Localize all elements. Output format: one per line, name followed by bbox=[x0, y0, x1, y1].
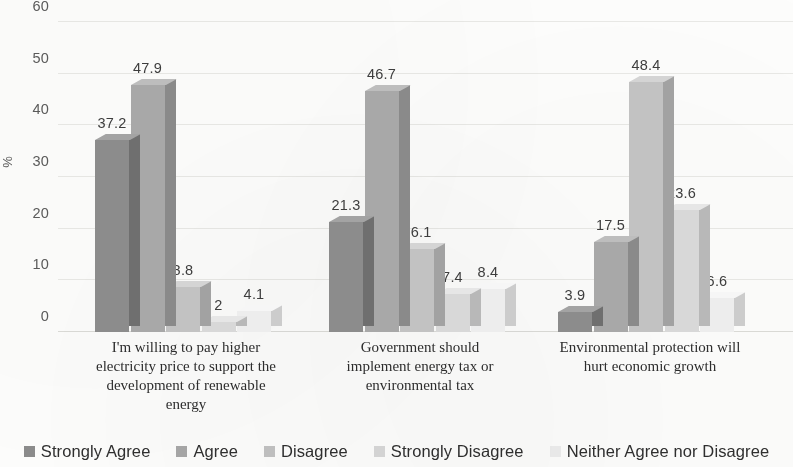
category-labels: I'm willing to pay higherelectricity pri… bbox=[58, 338, 793, 416]
bar-value-label: 21.3 bbox=[331, 197, 360, 213]
bar-side-face bbox=[505, 283, 516, 326]
y-axis-tick-label: 30 bbox=[32, 153, 49, 169]
category-label-line: energy bbox=[71, 395, 301, 414]
bar-value-label: 46.7 bbox=[367, 66, 396, 82]
category-label-line: Environmental protection will bbox=[535, 338, 765, 357]
y-axis-title: % bbox=[0, 156, 15, 168]
bar-group: 37.247.98.824.1 bbox=[95, 22, 278, 332]
category-label-line: I'm willing to pay higher bbox=[71, 338, 301, 357]
bar: 3.9 bbox=[558, 312, 592, 332]
bar-value-label: 3.9 bbox=[565, 287, 586, 303]
bar: 37.2 bbox=[95, 140, 129, 332]
category-label-line: development of renewable bbox=[71, 376, 301, 395]
bar-side-face bbox=[699, 204, 710, 326]
bar-side-face bbox=[363, 216, 374, 326]
legend-item[interactable]: Disagree bbox=[264, 442, 348, 461]
bar-groups: 37.247.98.824.121.346.716.17.48.43.917.5… bbox=[58, 22, 793, 332]
legend-label: Strongly Disagree bbox=[391, 442, 524, 461]
category-label: Environmental protection willhurt econom… bbox=[535, 338, 765, 376]
bar-value-label: 17.5 bbox=[596, 217, 625, 233]
bar-chart: 0102030405060% 37.247.98.824.121.346.716… bbox=[0, 0, 793, 467]
bar-value-label: 8.4 bbox=[478, 264, 499, 280]
bar-side-face bbox=[165, 79, 176, 326]
bar-group: 21.346.716.17.48.4 bbox=[329, 22, 512, 332]
bar-value-label: 48.4 bbox=[631, 57, 660, 73]
legend-swatch-icon bbox=[24, 446, 35, 457]
category-label-line: Government should bbox=[305, 338, 535, 357]
legend-label: Disagree bbox=[281, 442, 348, 461]
category-label: I'm willing to pay higherelectricity pri… bbox=[71, 338, 301, 414]
bar-front-face bbox=[329, 222, 363, 332]
legend: Strongly AgreeAgreeDisagreeStrongly Disa… bbox=[0, 442, 793, 461]
bar-side-face bbox=[628, 236, 639, 326]
bar-side-face bbox=[434, 243, 445, 326]
bar-value-label: 4.1 bbox=[244, 286, 265, 302]
y-axis-tick-label: 20 bbox=[32, 205, 49, 221]
bar-side-face bbox=[200, 281, 211, 326]
bar: 21.3 bbox=[329, 222, 363, 332]
bar-top-face bbox=[329, 216, 374, 222]
legend-item[interactable]: Agree bbox=[176, 442, 238, 461]
category-label-line: environmental tax bbox=[305, 376, 535, 395]
legend-swatch-icon bbox=[264, 446, 275, 457]
bar-group: 3.917.548.423.66.6 bbox=[558, 22, 741, 332]
bar-value-label: 47.9 bbox=[133, 60, 162, 76]
bar-top-face bbox=[131, 79, 176, 85]
y-axis-tick-label: 60 bbox=[32, 0, 49, 14]
legend-swatch-icon bbox=[176, 446, 187, 457]
legend-label: Neither Agree nor Disagree bbox=[567, 442, 770, 461]
y-axis-tick-label: 40 bbox=[32, 101, 49, 117]
legend-swatch-icon bbox=[374, 446, 385, 457]
legend-label: Strongly Agree bbox=[41, 442, 151, 461]
y-axis-tick-label: 0 bbox=[41, 308, 49, 324]
bar-top-face bbox=[558, 306, 603, 312]
bar-front-face bbox=[558, 312, 592, 332]
y-axis-tick-label: 10 bbox=[32, 256, 49, 272]
bar-front-face bbox=[95, 140, 129, 332]
y-axis-tick-label: 50 bbox=[32, 50, 49, 66]
category-label-line: hurt economic growth bbox=[535, 357, 765, 376]
bar-value-label: 37.2 bbox=[97, 115, 126, 131]
plot-area: 0102030405060% 37.247.98.824.121.346.716… bbox=[58, 22, 793, 332]
bar-top-face bbox=[237, 305, 282, 311]
bar-top-face bbox=[594, 236, 639, 242]
bar-value-label: 6.6 bbox=[707, 273, 728, 289]
bar-side-face bbox=[129, 134, 140, 326]
legend-item[interactable]: Neither Agree nor Disagree bbox=[550, 442, 770, 461]
bar-top-face bbox=[365, 85, 410, 91]
bar-value-label: 8.8 bbox=[173, 262, 194, 278]
category-label-line: implement energy tax or bbox=[305, 357, 535, 376]
category-label: Government shouldimplement energy tax or… bbox=[305, 338, 535, 395]
legend-swatch-icon bbox=[550, 446, 561, 457]
bar-side-face bbox=[399, 85, 410, 326]
bar-side-face bbox=[663, 76, 674, 326]
legend-label: Agree bbox=[193, 442, 238, 461]
bar-top-face bbox=[95, 134, 140, 140]
bar-value-label: 2 bbox=[214, 297, 222, 313]
category-label-line: electricity price to support the bbox=[71, 357, 301, 376]
legend-item[interactable]: Strongly Agree bbox=[24, 442, 151, 461]
bar-top-face bbox=[629, 76, 674, 82]
bar-value-label: 7.4 bbox=[442, 269, 463, 285]
legend-item[interactable]: Strongly Disagree bbox=[374, 442, 524, 461]
